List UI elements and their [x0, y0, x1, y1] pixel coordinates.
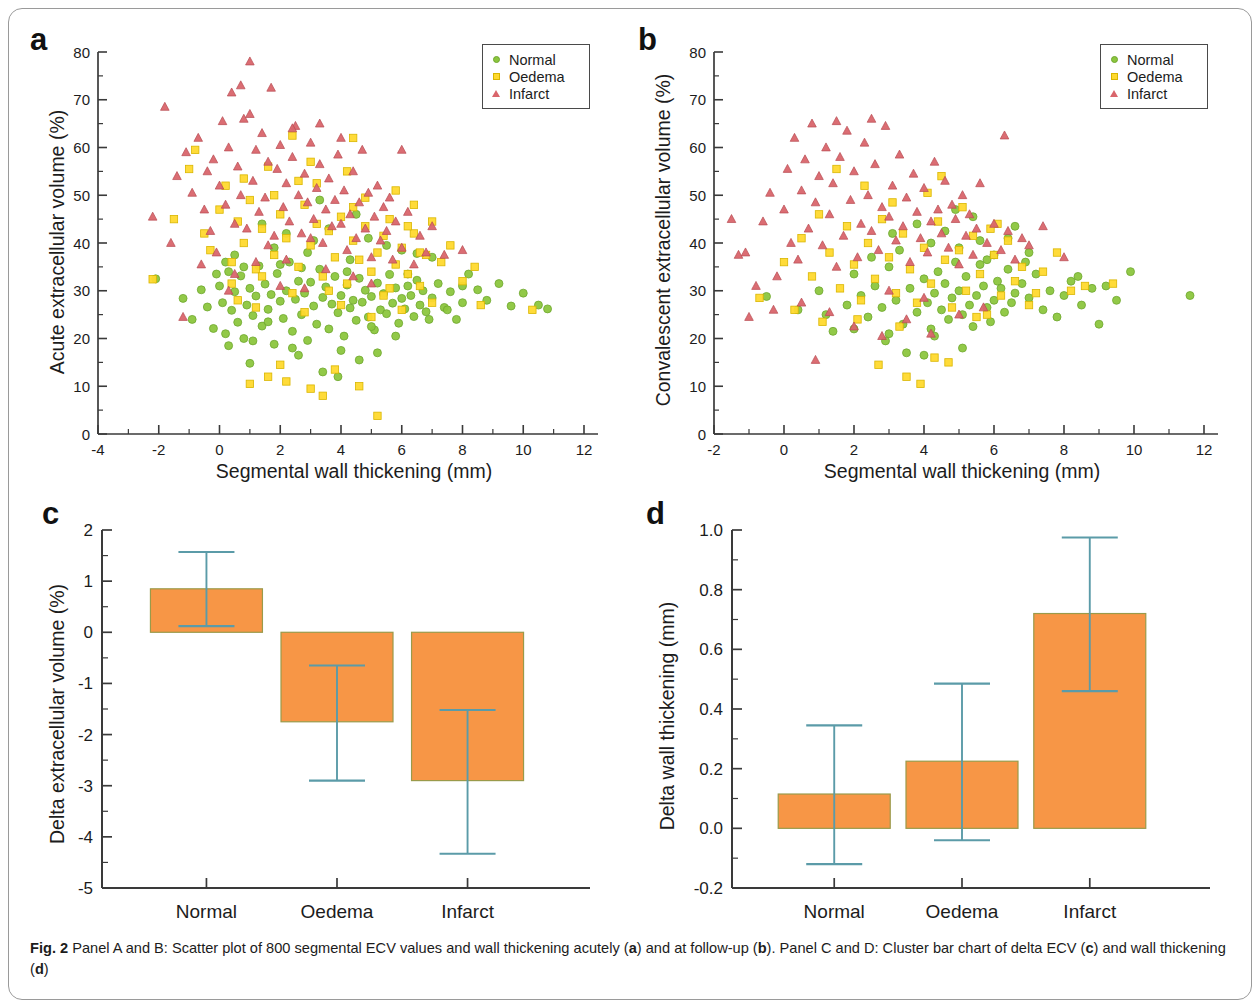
legend-label: Normal	[1127, 52, 1174, 68]
panel-d: d 1.00.80.60.40.20.0-0.2NormalOedemaInfa…	[632, 496, 1242, 936]
circle-marker-icon	[490, 53, 503, 66]
panel-c: c 210-1-2-3-4-5NormalOedemaInfarct Delta…	[24, 496, 624, 936]
svg-text:6: 6	[398, 441, 406, 458]
svg-text:Infarct: Infarct	[1063, 901, 1117, 922]
svg-text:12: 12	[1196, 441, 1213, 458]
svg-text:2: 2	[850, 441, 858, 458]
legend-label: Infarct	[1127, 86, 1167, 102]
panel-d-plot: 1.00.80.60.40.20.0-0.2NormalOedemaInfarc…	[632, 496, 1242, 936]
svg-text:Normal: Normal	[804, 901, 865, 922]
triangle-marker-icon	[490, 87, 503, 100]
square-marker-icon	[1108, 70, 1121, 83]
circle-glyph	[1111, 56, 1118, 63]
panel-b-xlabel: Segmental wall thickening (mm)	[732, 460, 1192, 483]
caption-figure-number: Fig. 2	[30, 940, 68, 956]
panel-b: b 01020304050607080-2024681012 Convalesc…	[632, 22, 1242, 492]
svg-text:-4: -4	[78, 828, 93, 847]
svg-text:10: 10	[1126, 441, 1143, 458]
svg-text:-0.2: -0.2	[694, 879, 723, 898]
svg-text:0: 0	[82, 426, 90, 443]
panel-a-legend: NormalOedemaInfarct	[482, 44, 590, 109]
svg-text:6: 6	[990, 441, 998, 458]
square-marker-icon	[490, 70, 503, 83]
svg-text:0.0: 0.0	[699, 819, 723, 838]
panel-a: a 01020304050607080-4-2024681012 Acute e…	[24, 22, 624, 492]
svg-text:30: 30	[689, 282, 706, 299]
svg-text:Oedema: Oedema	[301, 901, 374, 922]
svg-text:10: 10	[515, 441, 532, 458]
legend-item-infarct: Infarct	[490, 85, 580, 102]
triangle-glyph	[1110, 90, 1118, 97]
panel-a-xlabel: Segmental wall thickening (mm)	[124, 460, 584, 483]
svg-text:-3: -3	[78, 777, 93, 796]
svg-text:0.8: 0.8	[699, 581, 723, 600]
svg-text:30: 30	[73, 282, 90, 299]
svg-text:-1: -1	[78, 674, 93, 693]
panel-a-ylabel: Acute extracellular volume (%)	[46, 62, 69, 422]
legend-item-oedema: Oedema	[1108, 68, 1198, 85]
svg-text:50: 50	[689, 187, 706, 204]
figure-caption: Fig. 2 Panel A and B: Scatter plot of 80…	[30, 938, 1230, 980]
svg-text:60: 60	[689, 139, 706, 156]
svg-text:-4: -4	[91, 441, 104, 458]
square-glyph	[1111, 73, 1118, 80]
svg-text:0.2: 0.2	[699, 760, 723, 779]
legend-label: Oedema	[1127, 69, 1183, 85]
svg-text:8: 8	[458, 441, 466, 458]
svg-text:70: 70	[689, 91, 706, 108]
svg-text:Normal: Normal	[176, 901, 237, 922]
square-glyph	[493, 73, 500, 80]
panel-b-legend: NormalOedemaInfarct	[1100, 44, 1208, 109]
circle-marker-icon	[1108, 53, 1121, 66]
svg-text:80: 80	[73, 44, 90, 61]
svg-text:-2: -2	[152, 441, 165, 458]
svg-text:12: 12	[576, 441, 593, 458]
circle-glyph	[493, 56, 500, 63]
svg-text:40: 40	[689, 235, 706, 252]
legend-item-infarct: Infarct	[1108, 85, 1198, 102]
svg-text:40: 40	[73, 235, 90, 252]
svg-text:20: 20	[689, 330, 706, 347]
legend-item-normal: Normal	[1108, 51, 1198, 68]
panel-c-ylabel: Delta extracellular volume (%)	[46, 524, 69, 904]
svg-text:4: 4	[337, 441, 345, 458]
svg-text:80: 80	[689, 44, 706, 61]
svg-text:0: 0	[698, 426, 706, 443]
svg-text:0: 0	[780, 441, 788, 458]
caption-body: Panel A and B: Scatter plot of 800 segme…	[30, 940, 1226, 977]
svg-text:2: 2	[276, 441, 284, 458]
svg-text:10: 10	[73, 378, 90, 395]
svg-text:0: 0	[84, 623, 93, 642]
svg-text:Infarct: Infarct	[441, 901, 495, 922]
legend-item-normal: Normal	[490, 51, 580, 68]
svg-text:-5: -5	[78, 879, 93, 898]
svg-text:1.0: 1.0	[699, 521, 723, 540]
svg-text:0: 0	[215, 441, 223, 458]
svg-text:2: 2	[84, 521, 93, 540]
svg-text:8: 8	[1060, 441, 1068, 458]
svg-text:70: 70	[73, 91, 90, 108]
legend-item-oedema: Oedema	[490, 68, 580, 85]
panel-d-ylabel: Delta wall thickening (mm)	[656, 546, 679, 886]
svg-text:60: 60	[73, 139, 90, 156]
legend-label: Infarct	[509, 86, 549, 102]
svg-text:4: 4	[920, 441, 928, 458]
panel-c-plot: 210-1-2-3-4-5NormalOedemaInfarct	[24, 496, 624, 936]
svg-text:0.4: 0.4	[699, 700, 723, 719]
legend-label: Oedema	[509, 69, 565, 85]
svg-text:-2: -2	[707, 441, 720, 458]
legend-label: Normal	[509, 52, 556, 68]
svg-text:0.6: 0.6	[699, 640, 723, 659]
figure-root: a 01020304050607080-4-2024681012 Acute e…	[0, 0, 1260, 1008]
svg-text:20: 20	[73, 330, 90, 347]
svg-text:-2: -2	[78, 726, 93, 745]
svg-text:10: 10	[689, 378, 706, 395]
svg-text:50: 50	[73, 187, 90, 204]
panel-b-ylabel: Convalescent extracellular volume (%)	[652, 40, 675, 440]
triangle-glyph	[492, 90, 500, 97]
svg-text:Oedema: Oedema	[926, 901, 999, 922]
svg-text:1: 1	[84, 572, 93, 591]
triangle-marker-icon	[1108, 87, 1121, 100]
